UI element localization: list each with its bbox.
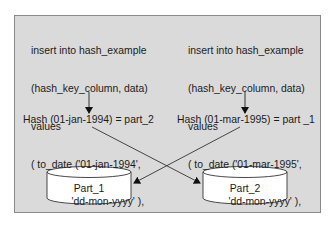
right-insert-line: 'dd-mon-yyyy' ), [188, 196, 305, 209]
partition-label-part1: Part_1 [47, 183, 131, 194]
left-insert-line: ( to_date ('01-jan-1994', [31, 159, 148, 172]
left-hash-result: Hash (01-jan-1994) = part_2 [23, 114, 154, 125]
left-insert-line: insert into hash_example [31, 45, 148, 58]
partition-label-part2: Part_2 [203, 183, 287, 194]
left-insert-line: 'dd-mon-yyyy' ), [31, 196, 148, 209]
left-insert-line: (hash_key_column, data) [31, 83, 148, 96]
right-insert-line: (hash_key_column, data) [188, 83, 305, 96]
right-insert-line: ( to_date ('01-mar-1995', [188, 159, 305, 172]
right-hash-result: Hash (01-mar-1995) = part _1 [177, 114, 315, 125]
right-insert-line: insert into hash_example [188, 45, 305, 58]
